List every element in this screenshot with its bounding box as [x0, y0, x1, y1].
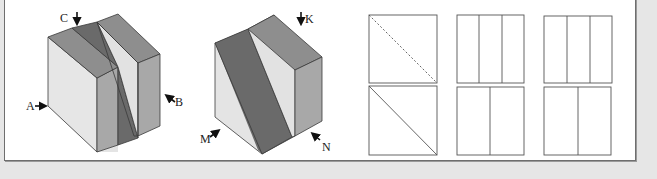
view-col2-row2 [457, 87, 524, 155]
svg-text:A: A [26, 99, 35, 113]
svg-text:K: K [305, 12, 314, 26]
view-col3-row1 [544, 16, 612, 83]
label-N: N [313, 134, 331, 154]
arrow-up-left-icon [167, 96, 175, 102]
cube-right-side [295, 57, 322, 136]
arrow-up-right-icon [210, 131, 218, 137]
label-K: K [301, 12, 314, 26]
label-B: B [167, 95, 183, 109]
svg-text:N: N [322, 140, 331, 154]
view-col3-row2 [544, 87, 611, 155]
label-A: A [26, 99, 45, 113]
label-M: M [200, 131, 218, 146]
view-col1-row1 [369, 15, 437, 83]
figure-canvas: C A B K M N [0, 0, 657, 179]
arrow-up-left-icon [313, 134, 320, 140]
cube-right [215, 15, 322, 154]
view-grid [369, 15, 612, 155]
view-col2-row1 [457, 15, 524, 83]
label-C: C [60, 11, 77, 25]
svg-text:M: M [200, 132, 211, 146]
cube-left [48, 14, 160, 152]
view-col1-row2 [369, 86, 437, 155]
svg-text:B: B [175, 95, 183, 109]
svg-text:C: C [60, 11, 68, 25]
